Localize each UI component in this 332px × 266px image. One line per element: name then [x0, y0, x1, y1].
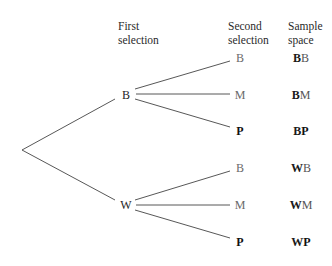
header-sample-space-line2: space: [288, 33, 323, 47]
branch-b-b: [135, 61, 230, 89]
node-second-p-2: P: [236, 236, 243, 248]
sample-outcome-wm: WM: [290, 199, 313, 211]
branch-b-p: [135, 99, 230, 127]
node-first-b: B: [122, 89, 130, 101]
sample-outcome-wb: WB: [291, 162, 311, 174]
node-second-m-1: M: [235, 89, 246, 101]
header-first-selection-line2: selection: [118, 33, 159, 47]
sample-outcome-bm: BM: [292, 89, 311, 101]
node-second-b-1: B: [236, 52, 244, 64]
sample-outcome-bp: BP: [293, 125, 308, 137]
branch-root-w: [22, 150, 115, 200]
header-first-selection: First selection: [118, 19, 159, 47]
node-second-p-1: P: [236, 125, 243, 137]
header-first-selection-line1: First: [118, 19, 159, 33]
branch-w-p: [135, 210, 230, 238]
header-second-selection-line2: selection: [228, 33, 269, 47]
header-second-selection: Second selection: [228, 19, 269, 47]
header-sample-space: Sample space: [288, 19, 323, 47]
sample-outcome-wp: WP: [291, 236, 310, 248]
node-second-m-2: M: [235, 199, 246, 211]
node-first-w: W: [120, 199, 131, 211]
branch-root-b: [22, 99, 115, 150]
header-second-selection-line1: Second: [228, 19, 269, 33]
sample-outcome-bb: BB: [293, 52, 309, 64]
header-sample-space-line1: Sample: [288, 19, 323, 33]
branch-w-b: [135, 171, 230, 200]
tree-branches: [0, 0, 332, 266]
node-second-b-2: B: [236, 162, 244, 174]
